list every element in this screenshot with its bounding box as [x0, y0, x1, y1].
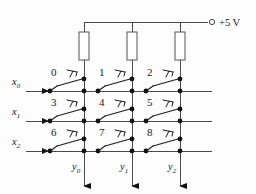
junction-y1-x2	[130, 149, 135, 154]
switch-7-actuator-stem[interactable]	[118, 131, 121, 137]
switch-5-contact-node	[178, 107, 183, 112]
switch-7-pivot-node	[96, 149, 101, 154]
junction-y0-x0	[82, 89, 87, 94]
switch-3-label: 3	[51, 96, 57, 108]
switch-3-contact-node	[82, 107, 87, 112]
switch-8-pivot-node	[144, 149, 149, 154]
switch-2-contact-node	[178, 77, 183, 82]
switch-4-pivot-node	[96, 119, 101, 124]
switch-5-lever-blade[interactable]	[153, 109, 178, 116]
switch-0-lever-blade[interactable]	[57, 79, 82, 86]
switch-1-label: 1	[99, 66, 105, 78]
row-label-x0: x0	[11, 76, 21, 90]
column-label-y2: y2	[167, 161, 177, 175]
switch-1-actuator-tip[interactable]	[124, 72, 125, 76]
row-label-sub-x2: 2	[17, 142, 21, 150]
junction-y2-x0	[178, 89, 183, 94]
switch-8-contact-node	[178, 137, 183, 142]
switch-4-actuator-cap[interactable]	[115, 100, 125, 102]
switch-4-label: 4	[99, 96, 105, 108]
switch-1-actuator-stem[interactable]	[118, 71, 121, 77]
switch-8-actuator-cap[interactable]	[163, 130, 173, 132]
supply-voltage-label: +5 V	[219, 17, 241, 28]
column-label-sub-y2: 2	[173, 167, 177, 175]
switch-3-actuator-tip[interactable]	[76, 102, 77, 106]
junction-y2-x1	[178, 119, 183, 124]
switch-0-contact-node	[82, 77, 87, 82]
row-label-x1: x1	[11, 106, 20, 120]
switch-0-actuator-stem[interactable]	[70, 71, 73, 77]
switch-0-pivot-node	[48, 89, 53, 94]
column-label-sub-y1: 1	[125, 167, 129, 175]
switch-0-label: 0	[51, 66, 57, 78]
switch-3-pivot-node	[48, 119, 53, 124]
column-label-y1: y1	[119, 161, 128, 175]
switch-1-contact-node	[130, 77, 135, 82]
row-label-x2: x2	[11, 136, 21, 150]
pullup-resistor-1	[127, 32, 137, 60]
switch-1-lever-blade[interactable]	[105, 79, 130, 86]
pullup-resistor-group	[79, 22, 185, 60]
switch-5-pivot-node	[144, 119, 149, 124]
switch-8-label: 8	[147, 126, 153, 138]
switch-0-actuator-cap[interactable]	[67, 70, 77, 72]
switch-6-label: 6	[51, 126, 57, 138]
junction-y0-x1	[82, 119, 87, 124]
open-circle-terminal-icon	[209, 19, 214, 24]
switch-6-contact-node	[82, 137, 87, 142]
switch-6-pivot-node	[48, 149, 53, 154]
switch-5-actuator-stem[interactable]	[166, 101, 169, 107]
junction-y0-x2	[82, 149, 87, 154]
switch-6-lever-blade[interactable]	[57, 139, 82, 146]
switch-8-actuator-stem[interactable]	[166, 131, 169, 137]
column-label-sub-y0: 0	[77, 167, 81, 175]
switch-7-label: 7	[99, 126, 105, 138]
junction-node-group	[48, 77, 183, 154]
switch-6-actuator-tip[interactable]	[76, 132, 77, 136]
switch-2-actuator-tip[interactable]	[172, 72, 173, 76]
switch-4-lever-blade[interactable]	[105, 109, 130, 116]
switch-3-actuator-stem[interactable]	[70, 101, 73, 107]
switch-5-label: 5	[147, 96, 153, 108]
pullup-resistor-2	[175, 32, 185, 60]
pullup-resistor-0	[79, 32, 89, 60]
switch-matrix-group	[50, 70, 178, 151]
switch-3-lever-blade[interactable]	[57, 109, 82, 116]
supply-rail-group	[84, 19, 215, 24]
switch-7-actuator-cap[interactable]	[115, 130, 125, 132]
junction-y1-x1	[130, 119, 135, 124]
switch-5-actuator-tip[interactable]	[172, 102, 173, 106]
circuit-svg: 012345678x0x1x2y0y1y2+5 V	[0, 0, 256, 194]
switch-4-contact-node	[130, 107, 135, 112]
junction-y2-x2	[178, 149, 183, 154]
switch-0-actuator-tip[interactable]	[76, 72, 77, 76]
switch-6-actuator-cap[interactable]	[67, 130, 77, 132]
junction-y1-x0	[130, 89, 135, 94]
switch-8-lever-blade[interactable]	[153, 139, 178, 146]
circuit-diagram-figure: 012345678x0x1x2y0y1y2+5 V	[0, 0, 256, 194]
switch-7-actuator-tip[interactable]	[124, 132, 125, 136]
switch-8-actuator-tip[interactable]	[172, 132, 173, 136]
row-label-sub-x0: 0	[17, 82, 21, 90]
row-label-sub-x1: 1	[17, 112, 21, 120]
switch-6-actuator-stem[interactable]	[70, 131, 73, 137]
switch-5-actuator-cap[interactable]	[163, 100, 173, 102]
column-label-y0: y0	[71, 161, 81, 175]
switch-2-actuator-stem[interactable]	[166, 71, 169, 77]
switch-1-pivot-node	[96, 89, 101, 94]
switch-4-actuator-stem[interactable]	[118, 101, 121, 107]
switch-3-actuator-cap[interactable]	[67, 100, 77, 102]
switch-7-lever-blade[interactable]	[105, 139, 130, 146]
switch-7-contact-node	[130, 137, 135, 142]
switch-2-pivot-node	[144, 89, 149, 94]
switch-2-actuator-cap[interactable]	[163, 70, 173, 72]
switch-2-lever-blade[interactable]	[153, 79, 178, 86]
switch-4-actuator-tip[interactable]	[124, 102, 125, 106]
switch-2-label: 2	[147, 66, 153, 78]
switch-1-actuator-cap[interactable]	[115, 70, 125, 72]
